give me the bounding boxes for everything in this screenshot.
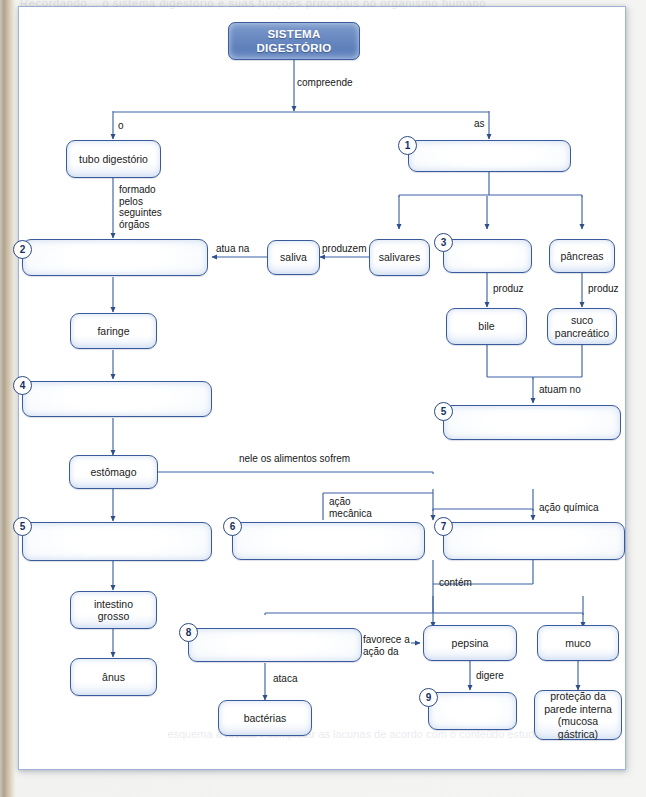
edge-label-produz-suco: produz <box>588 283 619 295</box>
bullet-1: 1 <box>398 136 417 155</box>
edge-label-produzem: produzem <box>322 243 366 255</box>
node-1-blank[interactable] <box>408 140 571 172</box>
node-4-blank[interactable] <box>22 381 212 417</box>
node-intestino-grosso[interactable]: intestino grosso <box>70 591 157 629</box>
node-salivares[interactable]: salivares <box>369 239 430 276</box>
node-6-blank[interactable] <box>232 522 425 560</box>
node-title-line1: SISTEMA <box>267 28 320 40</box>
edge-label-ataca: ataca <box>273 673 297 685</box>
node-bacterias[interactable]: bactérias <box>218 700 312 736</box>
node-anus-label: ânus <box>102 671 125 684</box>
node-pepsina[interactable]: pepsina <box>423 625 517 661</box>
node-faringe[interactable]: faringe <box>70 313 157 349</box>
edge-label-produz-bile: produz <box>493 283 524 295</box>
edge-label-acao-quimica: ação química <box>539 502 598 514</box>
edge-label-atuam-no: atuam no <box>539 384 581 396</box>
node-muco-label: muco <box>565 637 591 650</box>
edge-label-atua-na: atua na <box>216 243 249 255</box>
node-pancreas-label: pâncreas <box>560 250 603 263</box>
bullet-9: 9 <box>419 688 438 707</box>
bullet-4: 4 <box>13 376 32 395</box>
node-8-blank[interactable] <box>188 628 362 662</box>
node-suco-pancreatico[interactable]: suco pancreático <box>547 308 617 345</box>
node-suco-line1: suco <box>571 314 593 326</box>
edge-label-favorece-a-acao-da: favorece a ação da <box>363 634 410 657</box>
node-saliva-label: saliva <box>280 251 307 264</box>
edge-label-as: as <box>474 118 485 130</box>
edge-label-o: o <box>118 120 124 132</box>
node-faringe-label: faringe <box>97 325 129 338</box>
node-intestino-line1: intestino <box>94 598 133 610</box>
edge-label-compreende: compreende <box>297 77 353 89</box>
node-anus[interactable]: ânus <box>70 658 157 696</box>
edge-label-contem: contém <box>439 577 472 589</box>
edge-label-nele-os-alimentos-sofrem: nele os alimentos sofrem <box>239 453 350 465</box>
bullet-2: 2 <box>13 240 32 259</box>
node-5-left-blank[interactable] <box>22 522 212 561</box>
node-suco-line2: pancreático <box>555 327 609 339</box>
edge-label-formado-pelos-seguintes-orgaos: formado pelos seguintes órgãos <box>119 184 162 230</box>
node-pepsina-label: pepsina <box>452 637 489 650</box>
node-9-blank[interactable] <box>428 692 517 730</box>
bullet-6: 6 <box>223 517 242 536</box>
node-protecao-parede-interna[interactable]: proteção da parede interna (mucosa gástr… <box>534 690 622 740</box>
bullet-3: 3 <box>434 233 453 252</box>
node-sistema-digestorio[interactable]: SISTEMA DIGESTÓRIO <box>228 22 360 60</box>
node-tubo-digestorio-label: tubo digestório <box>79 153 148 166</box>
node-estomago[interactable]: estômago <box>69 455 158 489</box>
concept-map-canvas: compreende o as formado pelos seguintes … <box>0 0 646 797</box>
node-protecao-line3: (mucosa gástrica) <box>558 715 598 740</box>
node-bacterias-label: bactérias <box>244 712 287 725</box>
node-saliva[interactable]: saliva <box>267 240 320 275</box>
node-muco[interactable]: muco <box>537 625 619 661</box>
node-2-blank[interactable] <box>22 239 208 276</box>
bullet-8: 8 <box>179 623 198 642</box>
node-bile[interactable]: bile <box>446 308 527 345</box>
bullet-7: 7 <box>434 517 453 536</box>
node-3-blank[interactable] <box>443 239 532 273</box>
node-protecao-line2: parede interna <box>544 703 612 715</box>
node-title-line2: DIGESTÓRIO <box>256 42 331 54</box>
edge-label-acao-mecanica: ação mecânica <box>329 496 372 519</box>
node-tubo-digestorio[interactable]: tubo digestório <box>66 140 161 178</box>
node-estomago-label: estômago <box>90 466 136 479</box>
node-salivares-label: salivares <box>379 251 420 264</box>
node-pancreas[interactable]: pâncreas <box>549 239 615 273</box>
node-protecao-line1: proteção da <box>550 690 605 702</box>
bullet-5-right: 5 <box>434 402 453 421</box>
edge-label-digere: digere <box>476 670 504 682</box>
node-7-blank[interactable] <box>443 522 625 560</box>
node-intestino-line2: grosso <box>98 610 130 622</box>
node-5-right-blank[interactable] <box>443 405 621 440</box>
node-bile-label: bile <box>478 320 494 333</box>
bullet-5-left: 5 <box>13 517 32 536</box>
